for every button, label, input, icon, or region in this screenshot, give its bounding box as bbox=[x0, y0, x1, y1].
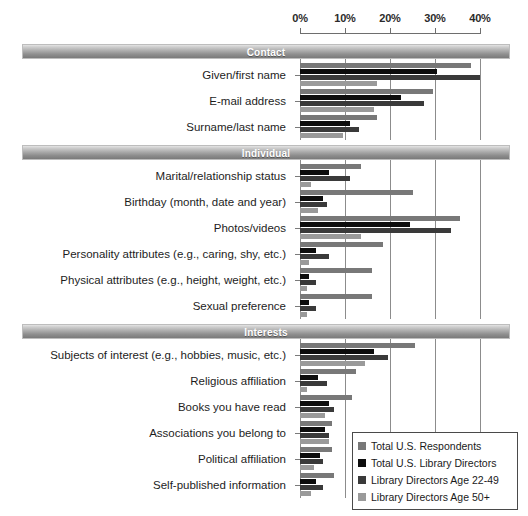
bar-2 bbox=[300, 306, 316, 311]
chart-legend: Total U.S. RespondentsTotal U.S. Library… bbox=[352, 432, 518, 510]
x-axis-tickmark bbox=[390, 28, 391, 34]
bar-0 bbox=[300, 242, 383, 247]
bar-0 bbox=[300, 216, 460, 221]
category-label: Religious affiliation bbox=[14, 368, 292, 394]
bar-1 bbox=[300, 196, 323, 201]
chart-row: Books you have read bbox=[0, 394, 528, 420]
x-axis-tick-labels: 0%10%20%30%40% bbox=[0, 12, 528, 26]
chart-row: Marital/relationship status bbox=[0, 163, 528, 189]
legend-item[interactable]: Total U.S. Respondents bbox=[358, 437, 512, 454]
legend-item[interactable]: Library Directors Age 22-49 bbox=[358, 471, 512, 488]
bar-2 bbox=[300, 101, 424, 106]
category-label: Personality attributes (e.g., caring, sh… bbox=[14, 241, 292, 267]
chart-row: Given/first name bbox=[0, 62, 528, 88]
cropped-top-text bbox=[0, 0, 528, 7]
category-label: Books you have read bbox=[14, 394, 292, 420]
bar-1 bbox=[300, 274, 309, 279]
bar-1 bbox=[300, 248, 316, 253]
bar-1 bbox=[300, 95, 401, 100]
bar-0 bbox=[300, 89, 433, 94]
bar-1 bbox=[300, 170, 329, 175]
bar-2 bbox=[300, 407, 334, 412]
legend-label: Library Directors Age 22-49 bbox=[371, 474, 499, 486]
bar-group bbox=[300, 114, 528, 140]
bar-3 bbox=[300, 107, 374, 112]
category-label: Surname/last name bbox=[14, 114, 292, 140]
bar-1 bbox=[300, 479, 316, 484]
bar-3 bbox=[300, 234, 361, 239]
bar-group bbox=[300, 394, 528, 420]
legend-swatch-icon bbox=[358, 442, 366, 450]
category-label: Photos/videos bbox=[14, 215, 292, 241]
bar-1 bbox=[300, 222, 410, 227]
category-label: Associations you belong to bbox=[14, 420, 292, 446]
bar-2 bbox=[300, 254, 329, 259]
bar-3 bbox=[300, 208, 318, 213]
bar-3 bbox=[300, 312, 307, 317]
bar-2 bbox=[300, 202, 327, 207]
category-label: Political affiliation bbox=[14, 446, 292, 472]
chart-row: E-mail address bbox=[0, 88, 528, 114]
legend-label: Library Directors Age 50+ bbox=[371, 491, 490, 503]
bar-1 bbox=[300, 401, 329, 406]
bar-0 bbox=[300, 473, 334, 478]
section-band-individual: Individual bbox=[22, 145, 510, 160]
legend-item[interactable]: Total U.S. Library Directors bbox=[358, 454, 512, 471]
chart-root: 0%10%20%30%40% ContactGiven/first nameE-… bbox=[0, 0, 528, 516]
section-title: Interests bbox=[23, 325, 509, 340]
bar-1 bbox=[300, 300, 309, 305]
bar-group bbox=[300, 88, 528, 114]
bar-3 bbox=[300, 133, 343, 138]
bar-2 bbox=[300, 228, 451, 233]
bar-2 bbox=[300, 355, 388, 360]
legend-swatch-icon bbox=[358, 459, 366, 467]
section-title: Contact bbox=[23, 45, 509, 60]
legend-swatch-icon bbox=[358, 476, 366, 484]
bar-group bbox=[300, 241, 528, 267]
bar-3 bbox=[300, 81, 377, 86]
bar-0 bbox=[300, 421, 332, 426]
bar-3 bbox=[300, 491, 311, 496]
chart-row: Religious affiliation bbox=[0, 368, 528, 394]
legend-label: Total U.S. Respondents bbox=[371, 440, 481, 452]
bar-0 bbox=[300, 369, 356, 374]
bar-2 bbox=[300, 127, 359, 132]
bar-0 bbox=[300, 395, 352, 400]
bar-3 bbox=[300, 361, 365, 366]
bar-2 bbox=[300, 485, 323, 490]
bar-3 bbox=[300, 260, 309, 265]
bar-group bbox=[300, 62, 528, 88]
chart-row: Photos/videos bbox=[0, 215, 528, 241]
category-label: E-mail address bbox=[14, 88, 292, 114]
bar-2 bbox=[300, 176, 350, 181]
section-band-interests: Interests bbox=[22, 324, 510, 339]
bar-group bbox=[300, 342, 528, 368]
category-label: Subjects of interest (e.g., hobbies, mus… bbox=[14, 342, 292, 368]
category-label: Birthday (month, date and year) bbox=[14, 189, 292, 215]
bar-0 bbox=[300, 63, 471, 68]
bar-1 bbox=[300, 375, 318, 380]
bar-0 bbox=[300, 164, 361, 169]
bar-0 bbox=[300, 447, 332, 452]
bar-2 bbox=[300, 433, 329, 438]
category-label: Given/first name bbox=[14, 62, 292, 88]
chart-row: Subjects of interest (e.g., hobbies, mus… bbox=[0, 342, 528, 368]
bar-3 bbox=[300, 439, 329, 444]
category-label: Physical attributes (e.g., height, weigh… bbox=[14, 267, 292, 293]
legend-item[interactable]: Library Directors Age 50+ bbox=[358, 488, 512, 505]
x-axis-tickmark bbox=[300, 28, 301, 34]
x-axis-tickmark bbox=[345, 28, 346, 34]
chart-row: Surname/last name bbox=[0, 114, 528, 140]
x-axis-tick-label: 0% bbox=[292, 12, 308, 24]
bar-group bbox=[300, 267, 528, 293]
legend-swatch-icon bbox=[358, 493, 366, 501]
chart-row: Physical attributes (e.g., height, weigh… bbox=[0, 267, 528, 293]
x-axis-tick-label: 20% bbox=[379, 12, 400, 24]
section-band-contact: Contact bbox=[22, 44, 510, 59]
bar-0 bbox=[300, 190, 413, 195]
chart-row: Personality attributes (e.g., caring, sh… bbox=[0, 241, 528, 267]
bar-1 bbox=[300, 121, 350, 126]
bar-2 bbox=[300, 381, 327, 386]
bar-2 bbox=[300, 280, 316, 285]
chart-row: Sexual preference bbox=[0, 293, 528, 319]
